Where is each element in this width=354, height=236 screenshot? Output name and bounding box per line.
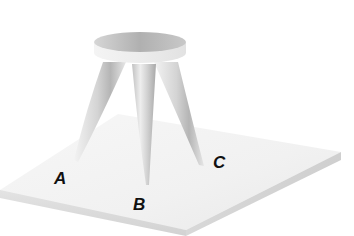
seat-top <box>94 32 186 52</box>
platform <box>0 114 341 236</box>
stool-illustration <box>0 0 354 236</box>
label-leg-a: A <box>54 170 66 187</box>
label-leg-b: B <box>133 196 145 213</box>
stool-seat <box>94 32 186 63</box>
platform-top-surface <box>0 114 341 230</box>
label-leg-c: C <box>213 154 225 171</box>
stool-diagram: A B C <box>0 0 354 236</box>
